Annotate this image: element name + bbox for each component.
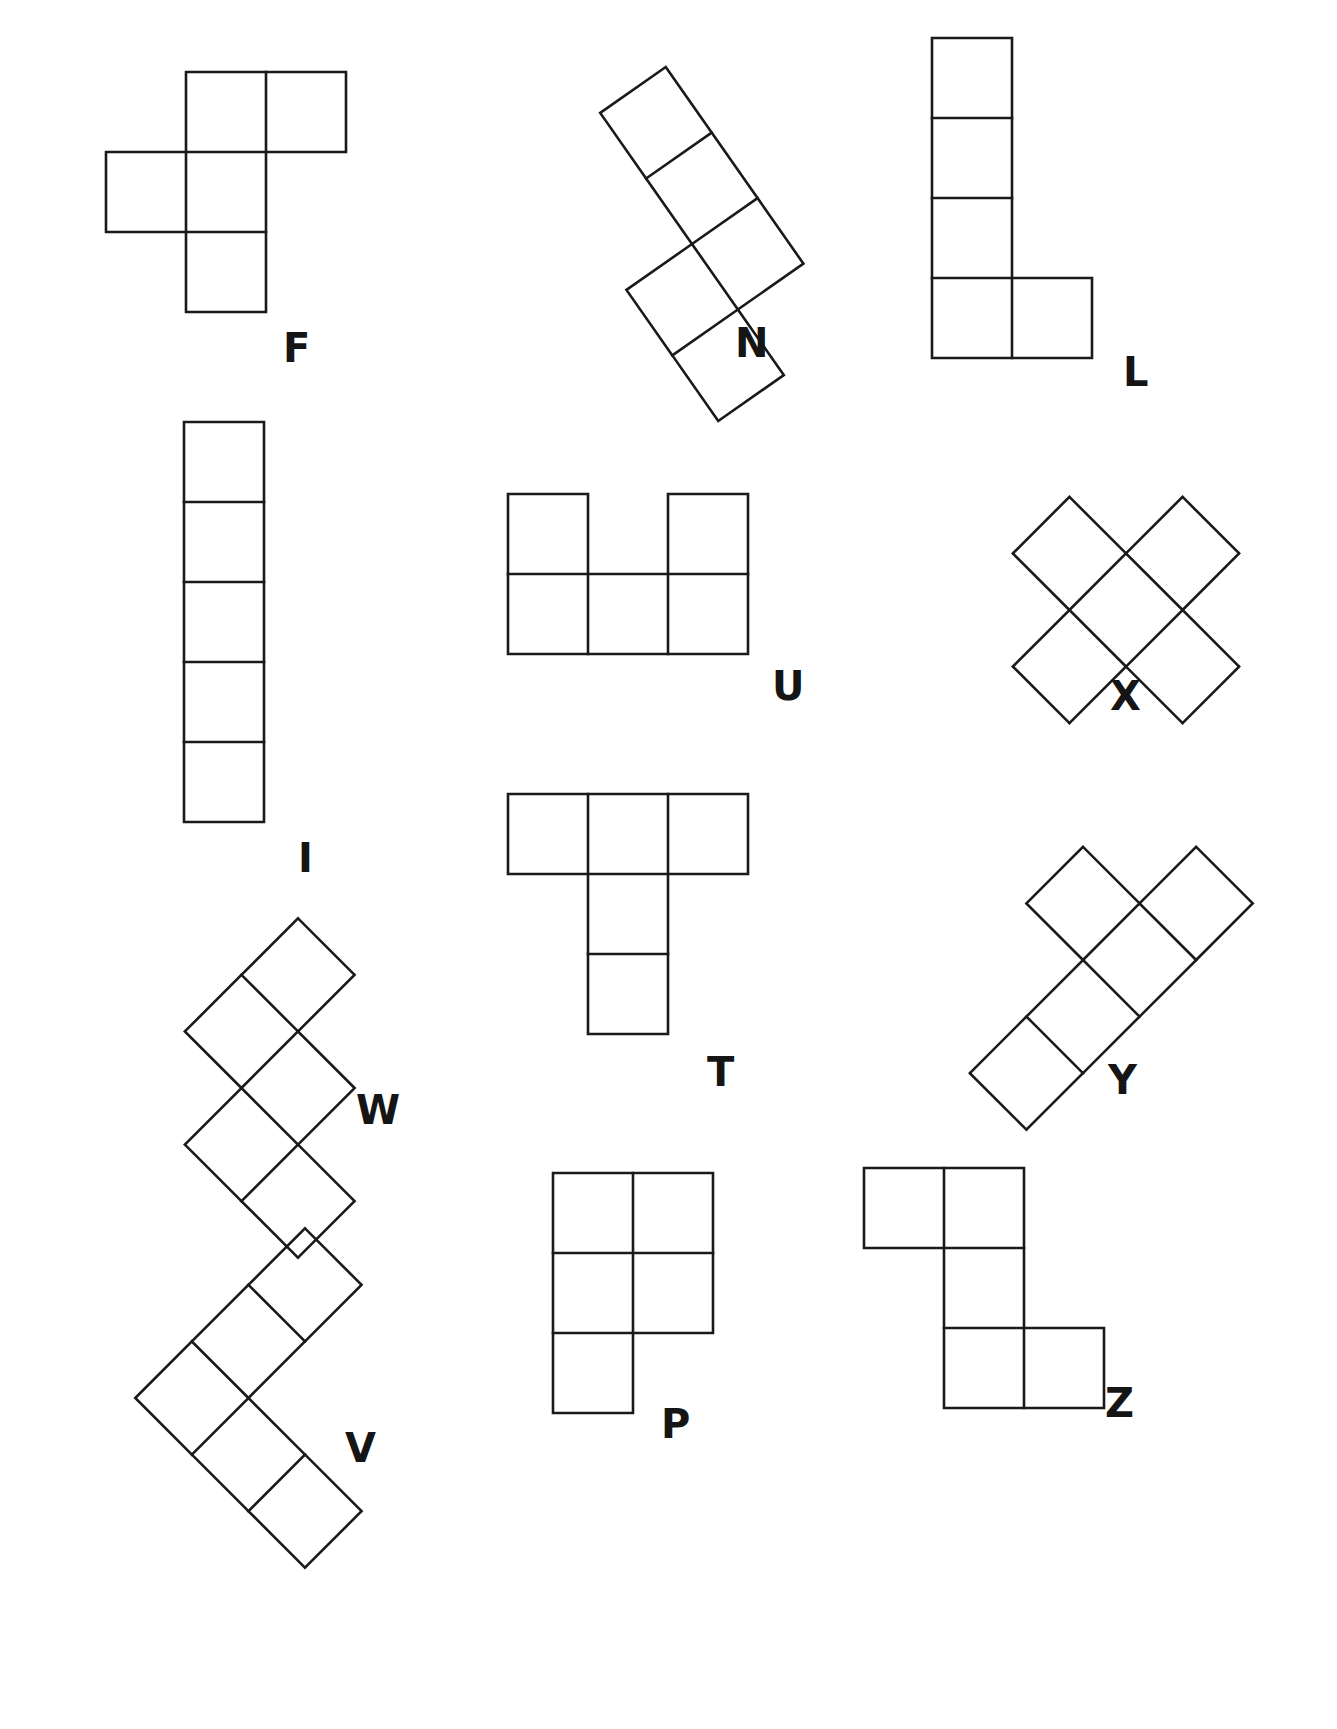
- pentomino-label-y: Y: [1108, 1060, 1137, 1100]
- pentomino-label-n: N: [735, 323, 768, 363]
- pentomino-label-w: W: [356, 1090, 400, 1130]
- pentomino-label-v: V: [345, 1428, 376, 1468]
- pentomino-outline: [508, 794, 748, 1034]
- pentomino-p: [553, 1173, 713, 1413]
- pentomino-inner-edges: [508, 574, 748, 654]
- pentomino-inner-edges: [588, 794, 668, 954]
- pentomino-z: [864, 1168, 1104, 1408]
- pentomino-label-z: Z: [1105, 1383, 1134, 1423]
- pentomino-sheet: FNLIUXWTYVPZ: [0, 0, 1337, 1729]
- pentomino-inner-edges: [186, 72, 266, 232]
- pentomino-label-t: T: [707, 1052, 734, 1092]
- pentomino-outline: [128, 918, 467, 1257]
- pentomino-inner-edges: [1069, 553, 1182, 666]
- pentomino-outline: [535, 67, 850, 421]
- pentomino-inner-edges: [932, 118, 1012, 358]
- pentomino-outline: [135, 1228, 474, 1567]
- pentomino-shapes-canvas: [0, 0, 1337, 1729]
- pentomino-outline: [184, 422, 264, 822]
- pentomino-y: [913, 790, 1252, 1129]
- pentomino-v: [135, 1228, 474, 1567]
- pentomino-n: [535, 67, 850, 421]
- pentomino-l: [932, 38, 1092, 358]
- pentomino-label-i: I: [298, 838, 313, 878]
- pentomino-t: [508, 794, 748, 1034]
- pentomino-outline: [956, 440, 1295, 779]
- pentomino-i: [184, 422, 264, 822]
- pentomino-label-u: U: [772, 666, 804, 706]
- pentomino-outline: [864, 1168, 1104, 1408]
- pentomino-label-f: F: [283, 328, 310, 368]
- pentomino-label-p: P: [661, 1404, 690, 1444]
- pentomino-f: [106, 72, 346, 312]
- pentomino-label-l: L: [1123, 352, 1149, 392]
- pentomino-inner-edges: [944, 1168, 1024, 1408]
- pentomino-inner-edges: [553, 1173, 713, 1333]
- pentomino-label-x: X: [1110, 676, 1141, 716]
- pentomino-x: [956, 440, 1295, 779]
- pentomino-inner-edges: [184, 502, 264, 742]
- pentomino-outline: [913, 790, 1252, 1129]
- pentomino-u: [508, 494, 748, 654]
- pentomino-outline: [106, 72, 346, 312]
- pentomino-w: [128, 918, 467, 1257]
